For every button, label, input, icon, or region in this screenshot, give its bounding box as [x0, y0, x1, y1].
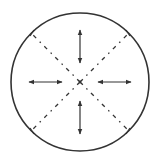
diagonal-upper-right — [80, 35, 127, 82]
diagonal-lower-left — [33, 82, 80, 129]
diagonal-upper-left — [33, 35, 80, 82]
diagonal-lower-right — [80, 82, 127, 129]
center-point — [79, 81, 82, 84]
radial-expansion-diagram — [0, 0, 159, 163]
diagram-canvas — [0, 0, 159, 163]
